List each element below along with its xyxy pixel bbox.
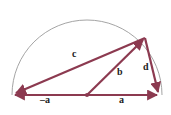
label-d: d: [143, 62, 149, 72]
label-b: b: [117, 67, 123, 77]
label-a: a: [119, 95, 124, 105]
geometry-diagram: c b d –a a: [0, 0, 171, 115]
semicircle-arc: [12, 20, 162, 95]
vector-b: [87, 40, 143, 95]
label-negative-a: –a: [40, 95, 50, 105]
center-point: [85, 93, 89, 97]
diagram-canvas: [0, 0, 171, 115]
label-c: c: [72, 49, 76, 59]
vector-c: [16, 38, 145, 93]
